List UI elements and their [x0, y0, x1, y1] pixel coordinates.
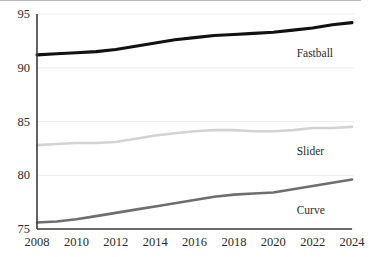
x-axis-tick-label: 2016 — [175, 236, 215, 249]
series-label-slider: Slider — [297, 146, 324, 158]
y-axis-tick-label: 75 — [4, 223, 30, 236]
x-axis-tick-label: 2022 — [293, 236, 333, 249]
x-axis-tick-label: 2020 — [253, 236, 293, 249]
y-axis-tick-label: 90 — [4, 62, 30, 75]
y-axis-tick-label: 85 — [4, 116, 30, 129]
series-line-slider — [37, 127, 352, 145]
x-axis-tick-label: 2014 — [135, 236, 175, 249]
x-axis-tick-label: 2012 — [96, 236, 136, 249]
x-axis-tick-label: 2018 — [214, 236, 254, 249]
x-axis-tick-label: 2024 — [332, 236, 369, 249]
x-axis-tick-label: 2010 — [56, 236, 96, 249]
series-label-curve: Curve — [297, 205, 325, 217]
x-axis-tick-label: 2008 — [17, 236, 57, 249]
series-label-fastball: Fastball — [297, 48, 333, 60]
y-axis-tick-label: 80 — [4, 169, 30, 182]
y-axis-tick-label: 95 — [4, 8, 30, 21]
